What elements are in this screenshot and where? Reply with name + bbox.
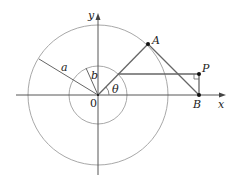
origin-label: 0 <box>90 97 97 110</box>
theta-label: θ <box>112 83 119 96</box>
rod-AB <box>148 44 199 95</box>
point-B <box>197 93 201 97</box>
point-A <box>146 42 150 46</box>
y-axis-label: y <box>87 9 95 22</box>
radius-a-label: a <box>61 61 68 74</box>
x-axis-arrow-icon <box>219 93 226 98</box>
y-axis-arrow-icon <box>96 13 101 20</box>
point-P-label: P <box>201 62 210 75</box>
x-axis-label: x <box>218 98 225 111</box>
point-P <box>197 72 201 76</box>
theta-arc <box>106 87 109 95</box>
point-A-label: A <box>151 34 160 47</box>
point-B-label: B <box>192 98 201 111</box>
radius-b-label: b <box>91 69 98 82</box>
rod-OA <box>98 44 148 95</box>
origin-point <box>97 94 99 96</box>
crank-mechanism-diagram: y x 0 A P B a b θ <box>0 0 236 181</box>
radius-a-line <box>39 59 98 95</box>
